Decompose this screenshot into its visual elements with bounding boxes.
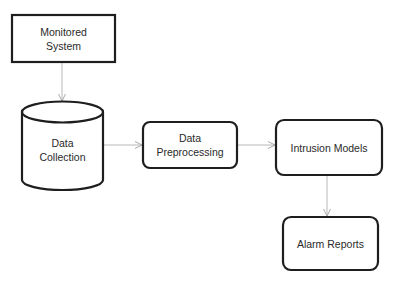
- monitored-system-label: Monitored System: [12, 15, 115, 62]
- intrusion-models-label: Intrusion Models: [276, 120, 382, 175]
- alarm-reports-label: Alarm Reports: [283, 217, 378, 270]
- data-preprocessing-label: Data Preprocessing: [143, 122, 237, 168]
- intrusion-detection-flow-diagram: Monitored System Data Collection Data Pr…: [0, 0, 396, 287]
- data-collection-label: Data Collection: [22, 125, 103, 175]
